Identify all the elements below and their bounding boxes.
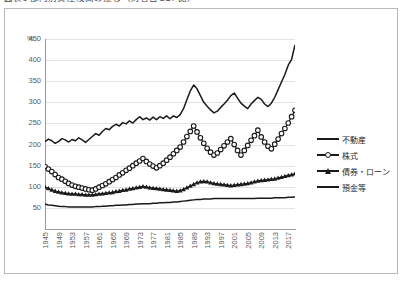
- x-axis-line: [45, 229, 296, 230]
- y-tick-label: 150: [15, 162, 41, 170]
- figure-caption: 図表3 部門別資産残高の推移（対名目GDP比）: [4, 0, 400, 4]
- legend-item[interactable]: 不動産: [317, 131, 395, 147]
- data-point-marker: [178, 145, 183, 150]
- y-tick-label: 450: [15, 35, 41, 43]
- legend-label: 債券・ローン: [342, 166, 390, 177]
- y-tick-label: 50: [15, 204, 41, 212]
- data-point-marker: [276, 137, 281, 142]
- legend-item[interactable]: 債券・ローン: [317, 163, 395, 179]
- x-tick-label: 1993: [204, 232, 212, 249]
- data-point-marker: [181, 140, 186, 145]
- data-point-marker: [293, 108, 295, 113]
- data-point-marker: [195, 130, 200, 135]
- data-point-marker: [286, 121, 291, 126]
- legend-swatch-circle-icon: [317, 150, 339, 160]
- legend-swatch-line-icon: [317, 134, 339, 144]
- data-point-marker: [269, 146, 274, 151]
- legend-label: 不動産: [342, 134, 366, 145]
- series-lines: [45, 39, 295, 229]
- y-tick-label: 350: [15, 77, 41, 85]
- x-tick-label: 1961: [96, 232, 104, 249]
- y-tick-label: 200: [15, 141, 41, 149]
- legend-swatch-line-icon: [317, 182, 339, 192]
- data-point-marker: [262, 140, 267, 145]
- x-tick-label: 2017: [285, 232, 293, 249]
- y-tick-label: 300: [15, 98, 41, 106]
- x-tick-label: 1997: [218, 232, 226, 249]
- data-point-marker: [256, 128, 261, 133]
- y-tick-label: 400: [15, 56, 41, 64]
- legend-label: 預金等: [342, 182, 366, 193]
- y-tick-label: 100: [15, 183, 41, 191]
- y-tick-label: 250: [15, 119, 41, 127]
- data-point-marker: [242, 148, 247, 153]
- data-point-marker: [229, 136, 234, 141]
- legend-swatch-triangle-icon: [317, 166, 339, 176]
- series-line-預金等: [45, 197, 295, 207]
- x-tick-label: 1957: [83, 232, 91, 249]
- x-tick-label: 1949: [56, 232, 64, 249]
- data-point-marker: [252, 133, 257, 138]
- data-point-marker: [188, 129, 193, 134]
- figure-caption-text: 図表3 部門別資産残高の推移（対名目GDP比）: [4, 0, 400, 4]
- x-tick-label: 1989: [191, 232, 199, 249]
- data-point-marker: [259, 135, 264, 140]
- x-tick-label: 1985: [177, 232, 185, 249]
- data-point-marker: [283, 126, 288, 131]
- data-point-marker: [232, 142, 237, 147]
- legend: 不動産株式債券・ローン預金等: [317, 131, 395, 195]
- legend-item[interactable]: 株式: [317, 147, 395, 163]
- data-point-marker: [235, 148, 240, 153]
- x-tick-label: 2009: [258, 232, 266, 249]
- x-tick-label: 1945: [42, 232, 50, 249]
- x-tick-label: 2005: [245, 232, 253, 249]
- x-tick-label: 1965: [110, 232, 118, 249]
- x-tick-label: 1953: [69, 232, 77, 249]
- series-line-株式: [45, 110, 295, 190]
- data-point-marker: [185, 134, 190, 139]
- data-point-marker: [289, 114, 294, 119]
- plot-area: [45, 39, 295, 229]
- legend-label: 株式: [342, 150, 358, 161]
- data-point-marker: [279, 131, 284, 136]
- x-tick-label: 1977: [150, 232, 158, 249]
- chart-screenshot: 図表3 部門別資産残高の推移（対名目GDP比） % 50100150200250…: [0, 0, 404, 282]
- data-point-marker: [191, 124, 196, 129]
- data-point-marker: [201, 141, 206, 146]
- chart-frame: % 50100150200250300350400450 19451949195…: [4, 8, 398, 274]
- data-point-marker: [249, 138, 254, 143]
- data-point-marker: [239, 153, 244, 158]
- x-tick-label: 2001: [231, 232, 239, 249]
- data-point-marker: [245, 143, 250, 148]
- data-point-marker: [198, 136, 203, 141]
- x-tick-label: 1981: [164, 232, 172, 249]
- legend-item[interactable]: 預金等: [317, 179, 395, 195]
- data-point-marker: [272, 142, 277, 147]
- x-tick-label: 1973: [137, 232, 145, 249]
- x-tick-label: 2013: [272, 232, 280, 249]
- x-tick-label: 1969: [123, 232, 131, 249]
